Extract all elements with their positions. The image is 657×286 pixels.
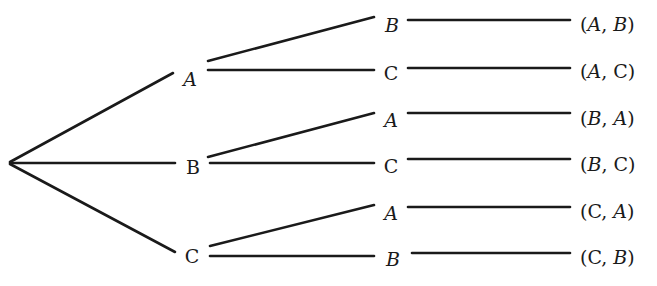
outcome-label: (A, C) [580, 62, 635, 81]
outcome-label: (B, A) [580, 109, 635, 128]
outcome-label: (C, A) [580, 202, 635, 221]
level2-node: A [384, 204, 398, 223]
tree-edges [0, 0, 657, 286]
root-to-level1-edge [10, 73, 173, 162]
outcome-label: (C, B) [580, 248, 635, 267]
level2-node: B [386, 250, 400, 269]
outcome-label: (B, C) [580, 155, 635, 174]
root-to-level1-edge [10, 164, 175, 252]
level2-node: C [384, 157, 399, 176]
outcome-label: (A, B) [580, 15, 635, 34]
level1-to-level2-edge [208, 17, 374, 61]
level1-node-b: B [186, 158, 200, 177]
tree-diagram: ABCBCACAB(A, B)(A, C)(B, A)(B, C)(C, A)(… [0, 0, 657, 286]
level2-node: C [384, 64, 399, 83]
level1-to-level2-edge [208, 113, 374, 157]
level1-node-a: A [183, 70, 197, 89]
level1-to-level2-edge [210, 205, 374, 246]
level2-node: A [384, 111, 398, 130]
level1-node-c: C [185, 247, 200, 266]
level2-node: B [385, 16, 399, 35]
